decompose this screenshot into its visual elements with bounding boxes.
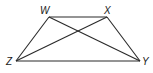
- trapezoid-diagram: W X Y Z: [0, 0, 153, 73]
- vertex-label-z: Z: [5, 56, 13, 67]
- side-xy: [107, 17, 140, 61]
- side-zw: [16, 17, 49, 61]
- vertex-label-y: Y: [142, 56, 150, 67]
- vertex-label-x: X: [103, 5, 111, 16]
- vertex-label-w: W: [40, 5, 51, 16]
